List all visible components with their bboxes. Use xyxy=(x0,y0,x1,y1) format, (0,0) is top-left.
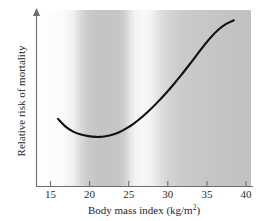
x-tick-label-15: 15 xyxy=(45,188,57,200)
x-axis-title: Body mass index (kg/m2) xyxy=(88,203,201,217)
x-axis-title-tail: ) xyxy=(196,204,200,217)
bmi-category-shading xyxy=(37,10,251,186)
x-tick-label-30: 30 xyxy=(162,188,174,200)
x-tick-label-25: 25 xyxy=(123,188,135,200)
x-tick-label-20: 20 xyxy=(84,188,96,200)
chart-figure: 15 20 25 30 35 40 Body mass index (kg/m2… xyxy=(0,0,276,221)
bmi-mortality-chart: 15 20 25 30 35 40 Body mass index (kg/m2… xyxy=(0,0,276,221)
x-tick-label-40: 40 xyxy=(241,188,253,200)
y-axis-title: Relative risk of mortality xyxy=(15,45,27,156)
x-axis-title-main: Body mass index (kg/m xyxy=(88,204,193,217)
x-tick-label-35: 35 xyxy=(201,188,213,200)
